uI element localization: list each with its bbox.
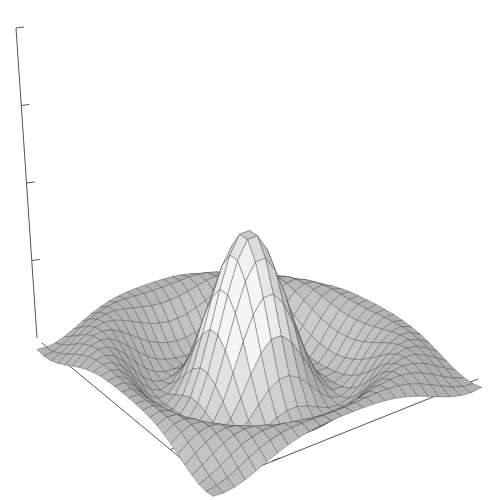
- z-axis: [16, 27, 40, 338]
- z-axis-tick: [16, 27, 24, 28]
- surface-plot: [0, 0, 497, 500]
- surface-plot-canvas: [0, 0, 497, 500]
- z-axis-tick: [21, 105, 29, 106]
- z-axis-tick: [32, 260, 40, 261]
- surface-mesh: [37, 231, 482, 497]
- z-axis-tick: [27, 182, 35, 183]
- y-axis-tick: [272, 458, 280, 461]
